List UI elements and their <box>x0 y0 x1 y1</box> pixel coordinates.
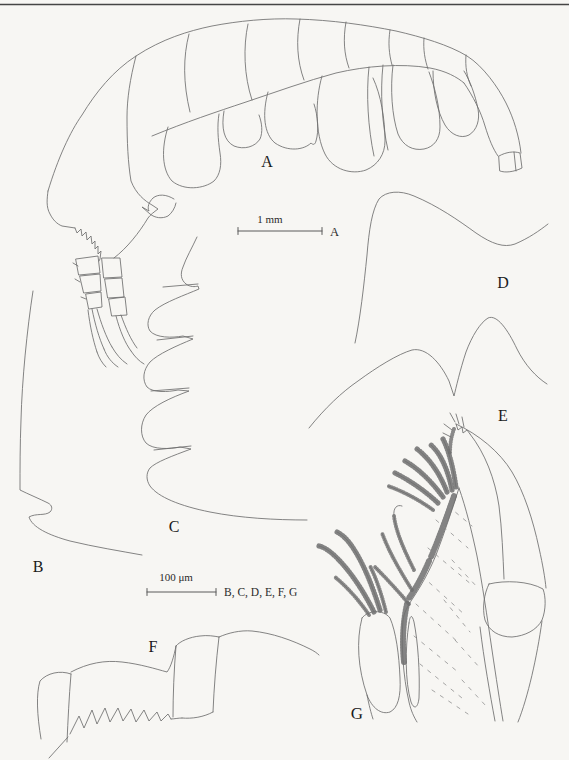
scale-bar-a-panels: A <box>330 225 339 239</box>
panel-g-drawing <box>319 413 546 722</box>
scale-bar-bcdefg-panels: B, C, D, E, F, G <box>224 586 297 599</box>
plumose-setae-upper <box>388 439 456 510</box>
figure-plate: A 1 mm A B C D E <box>0 0 569 760</box>
panel-f-drawing <box>37 631 319 758</box>
panel-label-a: A <box>261 153 273 170</box>
scale-bar-bcdefg: 100 μm B, C, D, E, F, G <box>147 571 297 599</box>
panel-label-d: D <box>497 274 509 291</box>
panel-a-drawing <box>47 19 522 367</box>
panel-b-drawing <box>20 291 142 555</box>
panel-label-g: G <box>351 704 363 723</box>
scale-bar-bcdefg-caption: 100 μm <box>159 571 193 583</box>
panel-c-drawing <box>142 237 308 520</box>
scale-bar-a-caption: 1 mm <box>257 213 283 225</box>
panel-d-drawing <box>355 192 548 343</box>
plumose-setae-left <box>319 532 386 615</box>
antenna-2 <box>102 258 144 364</box>
panel-label-b: B <box>33 558 44 575</box>
panel-label-c: C <box>169 518 180 535</box>
panel-label-e: E <box>498 407 508 424</box>
serrated-margin <box>70 708 171 734</box>
line-art-canvas: A 1 mm A B C D E <box>0 0 569 760</box>
panel-e-drawing <box>309 317 547 428</box>
panel-label-f: F <box>149 638 158 655</box>
antenna-1 <box>73 256 127 367</box>
scale-bar-a: 1 mm A <box>238 213 339 239</box>
telson-piece <box>499 152 522 172</box>
